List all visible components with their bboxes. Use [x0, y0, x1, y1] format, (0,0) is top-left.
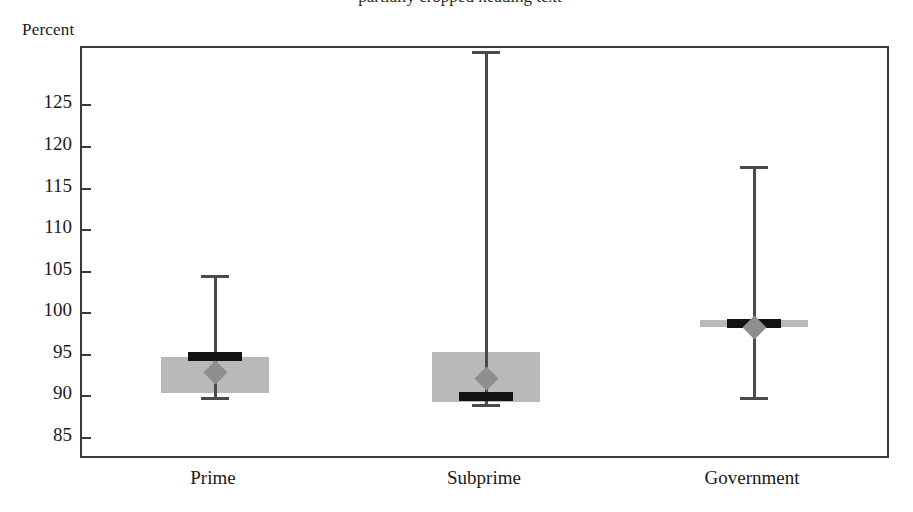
whisker-cap-upper — [201, 275, 229, 278]
plot-area — [82, 48, 887, 456]
y-axis-tick — [82, 188, 91, 190]
y-axis-tick-label: 85 — [12, 425, 72, 444]
y-axis-tick-label: 100 — [12, 300, 72, 319]
y-axis-tick-label: 95 — [12, 342, 72, 361]
y-axis-unit-label: Percent — [22, 20, 74, 40]
x-axis-category-label: Government — [705, 468, 800, 487]
whisker-line — [753, 166, 756, 397]
y-axis-tick-labels: 859095100105110115120125 — [0, 46, 72, 458]
whisker-cap-upper — [740, 166, 768, 169]
whisker-cap-lower — [201, 397, 229, 400]
y-axis-tick — [82, 312, 91, 314]
whisker-cap-lower — [740, 397, 768, 400]
y-axis-tick — [82, 395, 91, 397]
y-axis-tick — [82, 437, 91, 439]
cropped-title-text: partially cropped heading text — [60, 0, 860, 7]
median-bar — [459, 392, 513, 401]
box-plot-group — [161, 48, 269, 456]
y-axis-tick-label: 105 — [12, 259, 72, 278]
plot-frame — [80, 46, 889, 458]
y-axis-tick — [82, 104, 91, 106]
y-axis-tick-label: 110 — [12, 217, 72, 236]
y-axis-tick-label: 90 — [12, 383, 72, 402]
y-axis-tick-label: 125 — [12, 92, 72, 111]
y-axis-tick — [82, 354, 91, 356]
y-axis-tick — [82, 146, 91, 148]
y-axis-tick — [82, 271, 91, 273]
whisker-cap-lower — [472, 404, 500, 407]
y-axis-tick-label: 115 — [12, 176, 72, 195]
y-axis-tick — [82, 229, 91, 231]
x-axis-category-label: Prime — [190, 468, 235, 487]
whisker-cap-upper — [472, 51, 500, 54]
y-axis-tick-label: 120 — [12, 134, 72, 153]
x-axis-category-labels: PrimeSubprimeGovernment — [80, 468, 889, 498]
box-plot-group — [700, 48, 808, 456]
cropped-title-remnant: partially cropped heading text — [0, 0, 913, 13]
box-plot-group — [432, 48, 540, 456]
x-axis-category-label: Subprime — [447, 468, 521, 487]
whisker-line — [485, 51, 488, 403]
